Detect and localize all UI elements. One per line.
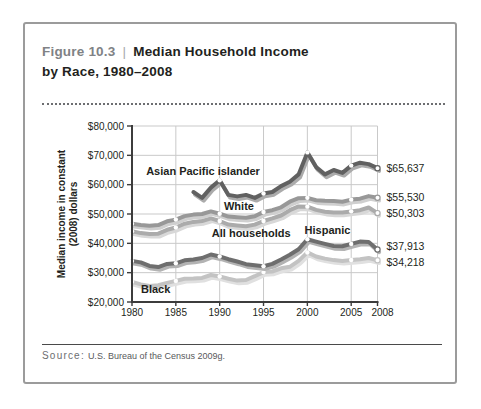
series-end-dot <box>375 211 380 216</box>
x-tick-label: 1995 <box>252 307 275 318</box>
title-separator: | <box>122 44 126 59</box>
figure-title-row: Figure 10.3|Median Household Income <box>42 42 309 62</box>
end-value-label: $34,218 <box>387 256 425 268</box>
data-point-marker <box>305 196 309 200</box>
figure-card: Figure 10.3|Median Household Income by R… <box>23 22 457 384</box>
data-point-marker <box>217 212 221 216</box>
y-tick-label: $70,000 <box>88 150 125 161</box>
end-value-label: $37,913 <box>387 240 425 252</box>
end-value-label: $55,530 <box>387 191 425 203</box>
series-end-dot <box>375 247 380 252</box>
series-end-dot <box>375 195 380 200</box>
source-divider <box>42 344 442 345</box>
data-point-marker <box>261 191 265 195</box>
end-value-label: $65,637 <box>387 162 425 174</box>
data-point-marker <box>174 279 178 283</box>
data-point-marker <box>174 261 178 265</box>
data-point-marker <box>217 274 221 278</box>
y-tick-label: $40,000 <box>88 238 125 249</box>
data-point-marker <box>305 250 309 254</box>
data-point-marker <box>349 163 353 167</box>
data-point-marker <box>305 237 309 241</box>
y-tick-label: $30,000 <box>88 267 125 278</box>
series-end-dot <box>375 258 380 263</box>
series-label-all-households: All households <box>212 227 291 239</box>
chart-area: $80,000$70,000$60,000$50,000$40,000$30,0… <box>42 102 462 337</box>
source-label: Source: <box>42 350 85 361</box>
x-tick-label: 1980 <box>121 307 144 318</box>
income-line-chart: $80,000$70,000$60,000$50,000$40,000$30,0… <box>42 102 462 337</box>
data-point-marker <box>349 242 353 246</box>
data-point-marker <box>305 204 309 208</box>
y-tick-label: $20,000 <box>88 297 125 308</box>
figure-title-line1: Median Household Income <box>133 44 309 59</box>
source-text: U.S. Bureau of the Census 2009g. <box>88 351 225 361</box>
y-axis-title-line2: (2008) dollars <box>68 181 79 246</box>
x-tick-label: 2008 <box>371 307 394 318</box>
data-point-marker <box>174 217 178 221</box>
data-point-marker <box>349 209 353 213</box>
data-point-marker <box>217 219 221 223</box>
series-label-asian-pacific-islander: Asian Pacific islander <box>146 165 260 177</box>
data-point-marker <box>261 219 265 223</box>
x-tick-label: 2000 <box>296 307 319 318</box>
end-value-label: $50,303 <box>387 207 425 219</box>
data-point-marker <box>217 254 221 258</box>
data-point-marker <box>305 150 309 154</box>
y-tick-label: $80,000 <box>88 121 125 132</box>
series-label-hispanic: Hispanic <box>305 224 351 236</box>
data-point-marker <box>349 258 353 262</box>
x-tick-label: 1985 <box>165 307 188 318</box>
series-label-white: White <box>224 200 254 212</box>
figure-number: Figure 10.3 <box>42 44 115 59</box>
data-point-marker <box>261 264 265 268</box>
source-line: Source:U.S. Bureau of the Census 2009g. <box>42 350 225 361</box>
x-tick-label: 1990 <box>209 307 232 318</box>
data-point-marker <box>174 225 178 229</box>
series-label-black: Black <box>141 283 171 295</box>
figure-title: Figure 10.3|Median Household Income by R… <box>42 42 309 82</box>
y-tick-label: $60,000 <box>88 179 125 190</box>
y-tick-label: $50,000 <box>88 209 125 220</box>
figure-screenshot: Figure 10.3|Median Household Income by R… <box>0 0 481 409</box>
data-point-marker <box>261 210 265 214</box>
x-tick-label: 2005 <box>340 307 363 318</box>
y-axis-title-line1: Median income in constant <box>56 149 67 278</box>
series-end-dot <box>375 166 380 171</box>
data-point-marker <box>217 178 221 182</box>
figure-title-line2: by Race, 1980–2008 <box>42 62 309 82</box>
data-point-marker <box>349 197 353 201</box>
